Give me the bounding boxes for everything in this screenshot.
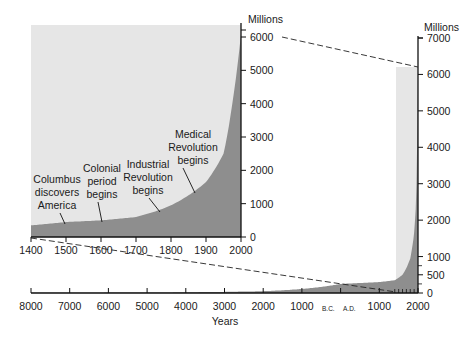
inset-chart: 0100020003000400050006000 14001500160017… <box>19 13 283 256</box>
main-unit-label: Millions <box>424 21 459 33</box>
x-tick-label: 1400 <box>19 244 43 256</box>
x-tick-label: 1800 <box>159 244 183 256</box>
x-tick-label: 5000 <box>135 300 159 312</box>
x-tick-label: 8000 <box>19 300 43 312</box>
bc-label: B.C. <box>322 305 335 312</box>
x-tick-label: 7000 <box>58 300 82 312</box>
svg-text:Revolution: Revolution <box>123 171 173 183</box>
y-tick-label: 4000 <box>427 141 451 153</box>
inset-unit-label: Millions <box>248 13 283 25</box>
y-tick-label: 1000 <box>427 251 451 263</box>
y-tick-label: 5000 <box>250 64 274 76</box>
svg-text:discovers: discovers <box>35 186 79 198</box>
x-tick-label: 2000 <box>229 244 253 256</box>
y-tick-label: 2000 <box>427 214 451 226</box>
svg-text:begins: begins <box>178 154 209 166</box>
x-tick-label: 1700 <box>124 244 148 256</box>
y-tick-label: 6000 <box>427 68 451 80</box>
svg-text:America: America <box>38 199 77 211</box>
inset-y-ticks: 0100020003000400050006000 <box>241 30 274 243</box>
y-tick-label: 4000 <box>250 98 274 110</box>
y-tick-label: 6000 <box>250 31 274 43</box>
svg-text:Industrial: Industrial <box>127 158 170 170</box>
y-tick-label: 1000 <box>250 198 274 210</box>
svg-text:Revolution: Revolution <box>168 141 218 153</box>
x-tick-label: 1900 <box>194 244 218 256</box>
y-tick-label: 3000 <box>427 178 451 190</box>
y-tick-label: 0 <box>250 231 256 243</box>
x-tick-label: 2000 <box>406 300 430 312</box>
svg-text:begins: begins <box>133 184 164 196</box>
x-tick-label: 1500 <box>54 244 78 256</box>
x-tick-label: 1000 <box>290 300 314 312</box>
x-tick-label: 4000 <box>174 300 198 312</box>
main-y-ticks: 05001000200030004000500060007000 <box>418 32 451 299</box>
x-axis-title: Years <box>212 315 238 327</box>
svg-text:Columbus: Columbus <box>33 173 80 185</box>
x-tick-label: 1000 <box>368 300 392 312</box>
svg-text:begins: begins <box>87 188 118 200</box>
y-tick-label: 7000 <box>427 32 451 44</box>
population-chart: 0100020003000400050006000 14001500160017… <box>0 0 473 344</box>
svg-text:Medical: Medical <box>175 128 211 140</box>
svg-text:Colonial: Colonial <box>83 162 121 174</box>
y-tick-label: 5000 <box>427 105 451 117</box>
svg-text:period: period <box>87 175 116 187</box>
inset-x-ticks: 1400150016001700180019002000 <box>19 237 253 256</box>
y-tick-label: 3000 <box>250 131 274 143</box>
ad-label: A.D. <box>343 305 356 312</box>
y-tick-label: 2000 <box>250 164 274 176</box>
y-tick-label: 0 <box>427 287 433 299</box>
x-tick-label: 2000 <box>252 300 276 312</box>
x-tick-label: 3000 <box>213 300 237 312</box>
y-tick-label: 500 <box>427 269 445 281</box>
x-tick-label: 6000 <box>97 300 121 312</box>
x-tick-label: 1600 <box>89 244 113 256</box>
